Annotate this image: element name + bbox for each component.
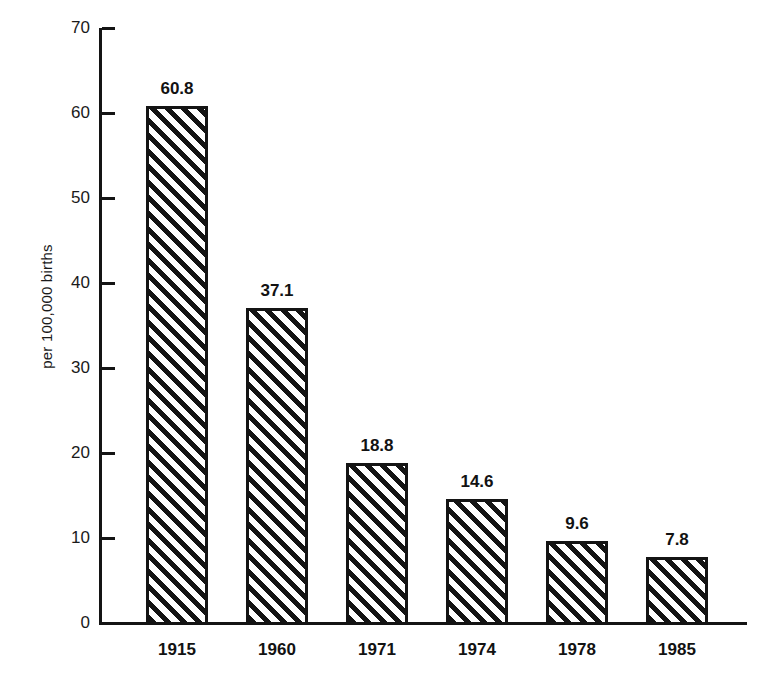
x-tick-label-1971: 1971 (322, 641, 432, 658)
bar-value-label-1960: 37.1 (222, 282, 332, 299)
bar-1960 (246, 308, 308, 625)
y-tick-0 (102, 622, 115, 625)
bar-value-label-1974: 14.6 (422, 473, 532, 490)
bar-1985 (646, 557, 708, 625)
y-tick-label-60: 60 (20, 104, 90, 121)
bar-1974 (446, 499, 508, 625)
bar-1978 (546, 541, 608, 625)
y-tick-label-70: 70 (20, 19, 90, 36)
x-tick-label-1985: 1985 (622, 641, 732, 658)
bar-1915 (146, 106, 208, 625)
y-tick-20 (102, 452, 115, 455)
bar-value-label-1915: 60.8 (122, 80, 232, 97)
y-tick-label-20: 20 (20, 444, 90, 461)
y-tick-10 (102, 537, 115, 540)
y-tick-label-50: 50 (20, 189, 90, 206)
y-tick-30 (102, 367, 115, 370)
y-tick-label-30: 30 (20, 359, 90, 376)
x-tick-label-1974: 1974 (422, 641, 532, 658)
bar-chart: per 100,000 births 010203040506070 60.83… (0, 0, 762, 699)
y-tick-50 (102, 197, 115, 200)
x-tick-label-1960: 1960 (222, 641, 332, 658)
x-tick-label-1915: 1915 (122, 641, 232, 658)
bar-value-label-1978: 9.6 (522, 515, 632, 532)
y-tick-label-10: 10 (20, 529, 90, 546)
y-axis-line (99, 28, 102, 625)
y-tick-label-40: 40 (20, 274, 90, 291)
bar-value-label-1985: 7.8 (622, 531, 732, 548)
y-tick-70 (102, 27, 115, 30)
bar-1971 (346, 463, 408, 625)
bar-value-label-1971: 18.8 (322, 437, 432, 454)
y-tick-60 (102, 112, 115, 115)
y-tick-label-0: 0 (20, 614, 90, 631)
x-tick-label-1978: 1978 (522, 641, 632, 658)
y-tick-40 (102, 282, 115, 285)
